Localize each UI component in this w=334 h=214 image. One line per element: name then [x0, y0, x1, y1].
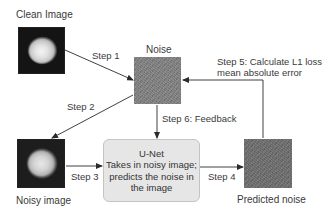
noisy-image-label: Noisy image — [16, 195, 71, 207]
step4-label: Step 4 — [208, 172, 235, 183]
step3-label: Step 3 — [71, 172, 98, 183]
predicted-noise-label: Predicted noise — [237, 194, 306, 206]
step5-label-line2: mean absolute error — [217, 68, 302, 79]
clean-image-thumbnail — [18, 27, 65, 74]
predicted-noise-square — [244, 139, 292, 188]
noise-square — [134, 57, 181, 104]
clean-image-label: Clean Image — [16, 9, 73, 21]
unet-box: U-Net Takes in noisy image; predicts the… — [103, 139, 200, 202]
arrow-step5 — [183, 80, 263, 138]
unet-desc-line1: Takes in noisy image; — [106, 159, 197, 170]
step2-label: Step 2 — [67, 102, 94, 113]
step1-label: Step 1 — [92, 51, 119, 62]
step6-label: Step 6: Feedback — [162, 114, 236, 125]
unet-desc-line2: predicts the noise in — [109, 171, 194, 182]
unet-desc-line3: the image — [131, 182, 173, 193]
noisy-image-thumbnail — [17, 139, 65, 188]
noise-label: Noise — [146, 44, 172, 56]
unet-title: U-Net — [139, 148, 164, 159]
